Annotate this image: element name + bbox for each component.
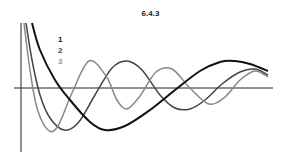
legend-label-1: 1 (58, 34, 62, 45)
legend-label-3: 3 (58, 56, 62, 67)
plot-area (0, 0, 287, 163)
legend-label-2: 2 (58, 45, 62, 56)
